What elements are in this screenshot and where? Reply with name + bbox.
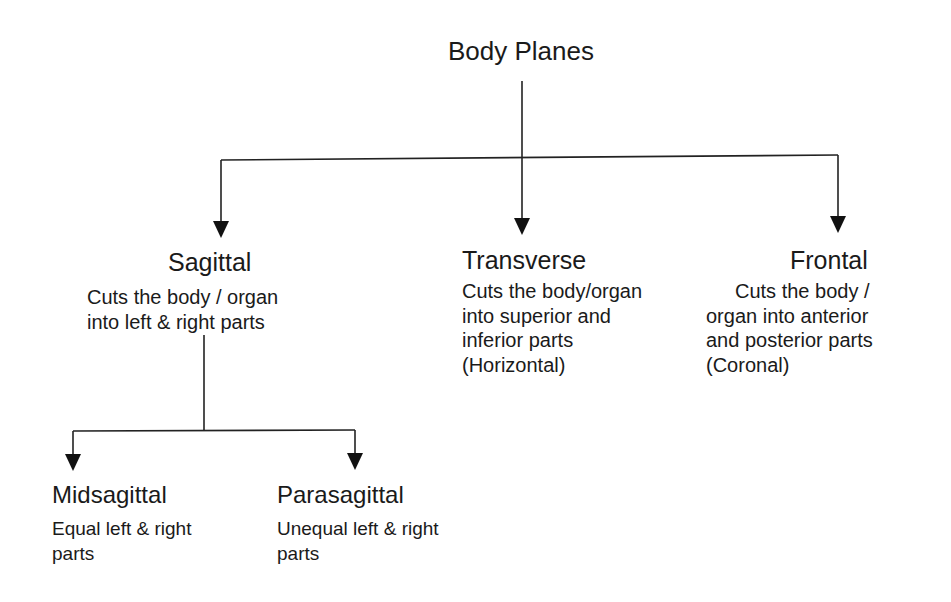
description-line: parts bbox=[277, 542, 439, 567]
node-title: Frontal bbox=[790, 248, 868, 273]
description-line: Cuts the body / organ bbox=[87, 285, 278, 310]
description-line: Cuts the body / bbox=[706, 279, 873, 304]
arrowhead-sagittal-icon bbox=[213, 221, 229, 238]
description-line: inferior parts bbox=[462, 328, 642, 353]
description-line: organ into anterior bbox=[706, 304, 873, 329]
description-line: (Coronal) bbox=[706, 353, 873, 378]
description-line: into left & right parts bbox=[87, 310, 278, 335]
arrowhead-frontal-icon bbox=[830, 216, 846, 233]
sub-bus-line bbox=[73, 430, 355, 431]
node-title: Midsagittal bbox=[52, 483, 167, 507]
node-description: Cuts the body / organ into left & right … bbox=[87, 285, 278, 334]
description-line: Cuts the body/organ bbox=[462, 279, 642, 304]
arrowhead-parasagittal-icon bbox=[347, 453, 363, 470]
description-line: parts bbox=[52, 542, 191, 567]
node-title: Sagittal bbox=[168, 250, 251, 275]
top-bus-line bbox=[221, 155, 838, 160]
arrowhead-midsagittal-icon bbox=[65, 454, 81, 471]
node-title: Transverse bbox=[462, 248, 586, 273]
description-line: Equal left & right bbox=[52, 517, 191, 542]
node-description: Equal left & right parts bbox=[52, 517, 191, 566]
description-line: Unequal left & right bbox=[277, 517, 439, 542]
root-node-title: Body Planes bbox=[448, 36, 594, 67]
description-line: into superior and bbox=[462, 304, 642, 329]
node-description: Unequal left & right parts bbox=[277, 517, 439, 566]
arrowhead-transverse-icon bbox=[514, 218, 530, 235]
node-title: Parasagittal bbox=[277, 483, 404, 507]
description-line: (Horizontal) bbox=[462, 353, 642, 378]
node-description: Cuts the body / organ into anterior and … bbox=[706, 279, 873, 377]
node-description: Cuts the body/organ into superior and in… bbox=[462, 279, 642, 377]
description-line: and posterior parts bbox=[706, 328, 873, 353]
